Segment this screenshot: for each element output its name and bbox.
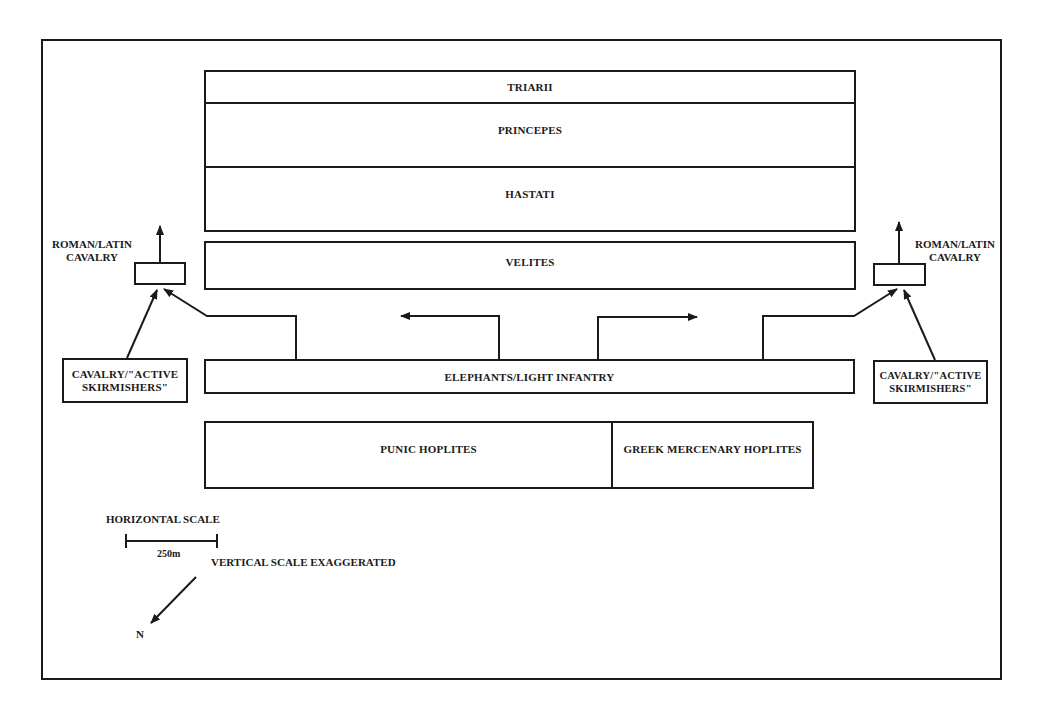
horizontal-scale-label: HORIZONTAL SCALE (106, 513, 220, 526)
vertical-scale-note: VERTICAL SCALE EXAGGERATED (211, 556, 396, 569)
north-label: N (136, 628, 144, 641)
scale-value: 250m (157, 547, 180, 560)
movement-arrows (0, 0, 1043, 717)
